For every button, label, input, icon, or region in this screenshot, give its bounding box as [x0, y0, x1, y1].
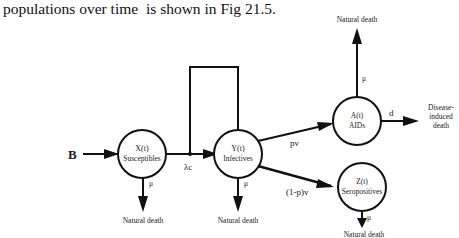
disease-death-rate-label: d [389, 108, 394, 118]
svg-text:Y(t): Y(t) [231, 144, 245, 153]
node-susceptibles: X(t) Susceptibles [118, 130, 166, 178]
node-aids: A(t) AIDs [333, 97, 381, 145]
to-seropositives-label: (1-p)v [286, 187, 309, 197]
aids-natural-death-arrow: μ Natural death [337, 15, 378, 97]
svg-text:AIDs: AIDs [349, 121, 365, 130]
to-seropositives-arrow: (1-p)v [258, 166, 334, 197]
birth-label: B [68, 147, 77, 162]
aids-natural-death-label: Natural death [337, 15, 378, 24]
susceptibles-natural-death-label: Natural death [123, 216, 164, 225]
node-seropositives: Z(t) Seropositives [338, 163, 386, 211]
node-infectives: Y(t) Infectives [214, 130, 262, 178]
compartment-diagram: B X(t) Susceptibles λc Y(t) Infectives p… [0, 0, 459, 238]
to-aids-arrow: pv [258, 122, 334, 148]
svg-text:induced: induced [429, 112, 453, 121]
svg-text:Infectives: Infectives [223, 154, 253, 163]
seropositives-natural-death-arrow: μ Natural death [344, 211, 385, 238]
svg-text:Susceptibles: Susceptibles [123, 154, 161, 163]
susceptibles-natural-death-arrow: μ Natural death [123, 178, 164, 225]
infection-rate-label: λc [184, 162, 192, 172]
svg-text:μ: μ [149, 179, 153, 188]
svg-text:X(t): X(t) [135, 144, 149, 153]
svg-text:μ: μ [362, 74, 366, 83]
svg-text:μ: μ [244, 179, 248, 188]
svg-text:death: death [433, 121, 449, 130]
to-aids-label: pv [290, 138, 300, 148]
birth-arrow: B [68, 147, 119, 162]
svg-text:μ: μ [367, 213, 371, 222]
svg-text:Z(t): Z(t) [356, 177, 368, 186]
infectives-natural-death-label: Natural death [218, 216, 259, 225]
svg-text:A(t): A(t) [351, 111, 364, 120]
svg-text:Disease-: Disease- [428, 103, 454, 112]
disease-death-arrow: d Disease- induced death [381, 103, 454, 130]
seropositives-natural-death-label: Natural death [344, 230, 385, 238]
infectives-natural-death-arrow: μ Natural death [218, 178, 259, 225]
svg-text:Seropositives: Seropositives [342, 187, 382, 196]
